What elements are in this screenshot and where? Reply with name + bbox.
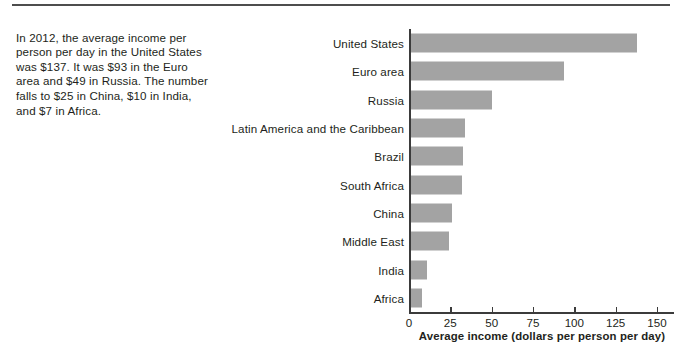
x-axis-title: Average income (dollars per person per d… [409,330,675,342]
bar [411,232,449,251]
x-tick-label: 75 [527,316,540,329]
x-tick-label: 25 [444,316,457,329]
bar-row: Brazil [236,142,676,170]
bar-row: South Africa [236,170,676,198]
bar [411,175,462,194]
x-tick-label: 125 [606,316,625,329]
bar-row: Russia [236,86,676,114]
bar-row: Middle East [236,227,676,255]
bar-row: Euro area [236,57,676,85]
bar-category-label: South Africa [340,178,404,191]
bar-category-label: Euro area [352,65,404,78]
x-tick-mark [657,307,658,313]
x-tick-label: 0 [406,316,412,329]
bar-category-label: Latin America and the Caribbean [232,122,404,135]
x-tick-mark [492,307,493,313]
bar [411,288,423,307]
bar-category-label: India [378,263,404,276]
x-tick-mark [574,307,575,313]
bar [411,203,452,222]
x-tick-label: 50 [485,316,498,329]
bar-category-label: United States [333,37,404,50]
bar-row: Latin America and the Caribbean [236,114,676,142]
bar-row: Africa [236,284,676,312]
bar [411,90,492,109]
bar-category-label: China [373,206,404,219]
bar [411,34,637,53]
bar [411,147,464,166]
x-tick-label: 150 [647,316,666,329]
bar-row: China [236,199,676,227]
bar-category-label: Brazil [374,150,404,163]
bar-row: India [236,255,676,283]
caption-paragraph: In 2012, the average income per person p… [16,31,208,119]
bar-chart: United StatesEuro areaRussiaLatin Americ… [236,24,676,344]
bar [411,62,565,81]
bar-category-label: Africa [374,291,404,304]
bar-rows: United StatesEuro areaRussiaLatin Americ… [236,29,676,312]
x-tick-mark [533,307,534,313]
bar-category-label: Russia [368,93,404,106]
bar [411,260,428,279]
x-tick-label: 100 [565,316,584,329]
bar [411,119,466,138]
bar-row: United States [236,29,676,57]
top-divider-rule [12,4,670,6]
x-tick-mark [450,307,451,313]
bar-category-label: Middle East [342,235,404,248]
x-tick-mark [616,307,617,313]
